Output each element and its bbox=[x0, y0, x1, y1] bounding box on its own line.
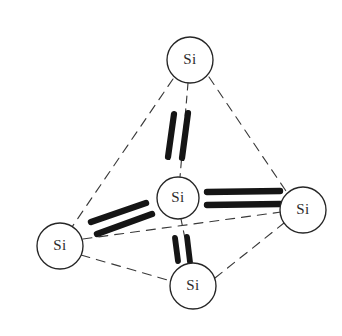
atom-label-si-left: Si bbox=[53, 237, 66, 253]
bond-electron-stroke bbox=[175, 238, 178, 261]
bond-center-to-right-si bbox=[207, 191, 280, 205]
edge-top-to-right-si bbox=[209, 77, 288, 194]
atom-si-center[interactable]: Si bbox=[157, 177, 199, 219]
bond-electron-stroke bbox=[207, 204, 280, 205]
edge-bottom-to-right-si bbox=[215, 223, 284, 278]
bond-center-to-left-si bbox=[91, 203, 152, 234]
atom-label-si-top: Si bbox=[183, 51, 196, 67]
bond-electron-stroke bbox=[168, 114, 174, 157]
atom-si-top[interactable]: Si bbox=[167, 37, 213, 83]
atom-si-right[interactable]: Si bbox=[280, 187, 326, 233]
bond-electron-stroke bbox=[182, 113, 188, 158]
atom-label-si-bottom: Si bbox=[186, 277, 199, 293]
atom-nodes: Si Si Si Si Si bbox=[37, 37, 326, 309]
atom-si-bottom[interactable]: Si bbox=[170, 263, 216, 309]
bond-electron-stroke bbox=[187, 237, 190, 262]
silicon-tetrahedron-diagram: Si Si Si Si Si bbox=[0, 0, 342, 336]
atom-label-si-center: Si bbox=[171, 189, 184, 205]
atom-label-si-right: Si bbox=[296, 201, 309, 217]
tetrahedron-canvas: Si Si Si Si Si bbox=[0, 0, 342, 336]
bond-electron-stroke bbox=[207, 191, 280, 192]
bond-center-to-bottom-si bbox=[175, 237, 190, 262]
edge-left-to-bottom-si bbox=[81, 255, 171, 281]
bond-center-to-top-si bbox=[168, 113, 188, 158]
atom-si-left[interactable]: Si bbox=[37, 223, 83, 269]
